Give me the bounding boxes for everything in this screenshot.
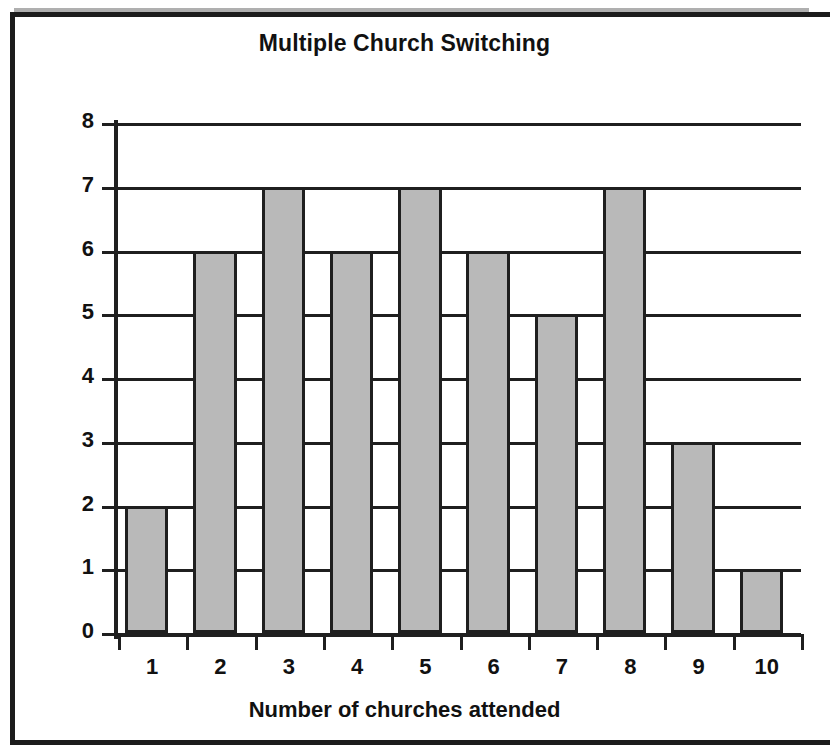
y-tick-label-8: 8 <box>60 108 94 134</box>
x-tick-10 <box>801 634 804 650</box>
gridline-y-7 <box>118 187 801 190</box>
x-tick-label-2: 2 <box>186 654 254 680</box>
bar-8 <box>603 187 646 633</box>
bar-4 <box>330 251 373 634</box>
x-tick-label-9: 9 <box>665 654 733 680</box>
x-tick-label-1: 1 <box>118 654 186 680</box>
bar-3 <box>262 187 305 633</box>
gridline-y-0 <box>118 633 801 637</box>
y-tick-label-1: 1 <box>60 554 94 580</box>
bar-9 <box>671 442 714 633</box>
bar-2 <box>193 251 236 634</box>
y-tick-0 <box>102 633 116 636</box>
y-tick-label-3: 3 <box>60 427 94 453</box>
x-axis-title: Number of churches attended <box>0 697 809 723</box>
x-tick-label-5: 5 <box>391 654 459 680</box>
gridline-y-8 <box>118 123 801 126</box>
bar-10 <box>740 569 783 633</box>
x-tick-label-10: 10 <box>733 654 801 680</box>
y-tick-8 <box>102 123 116 126</box>
x-tick-label-7: 7 <box>528 654 596 680</box>
y-tick-label-0: 0 <box>60 618 94 644</box>
y-tick-label-2: 2 <box>60 491 94 517</box>
x-tick-label-8: 8 <box>596 654 664 680</box>
bar-7 <box>535 314 578 633</box>
y-tick-6 <box>102 251 116 254</box>
chart-title: Multiple Church Switching <box>0 30 809 57</box>
y-tick-label-5: 5 <box>60 299 94 325</box>
y-tick-label-6: 6 <box>60 236 94 262</box>
y-tick-7 <box>102 187 116 190</box>
x-tick-label-4: 4 <box>323 654 391 680</box>
y-tick-label-7: 7 <box>60 172 94 198</box>
x-tick-label-3: 3 <box>255 654 323 680</box>
y-tick-3 <box>102 442 116 445</box>
y-tick-2 <box>102 506 116 509</box>
y-tick-label-4: 4 <box>60 363 94 389</box>
bar-5 <box>398 187 441 633</box>
y-tick-4 <box>102 378 116 381</box>
bar-1 <box>125 506 168 634</box>
bar-6 <box>466 251 509 634</box>
plot-area <box>118 123 801 633</box>
x-tick-label-6: 6 <box>460 654 528 680</box>
y-tick-1 <box>102 569 116 572</box>
y-tick-5 <box>102 314 116 317</box>
